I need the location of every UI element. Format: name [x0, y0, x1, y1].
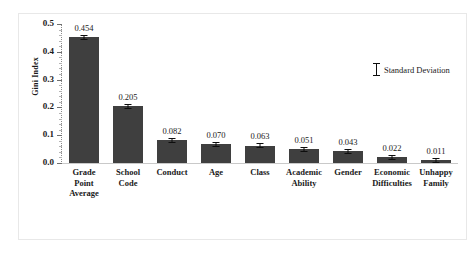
x-axis-category-label: Class — [238, 167, 282, 178]
y-axis-minor-tick — [59, 152, 62, 153]
y-axis-minor-tick — [59, 35, 62, 36]
y-axis-tick-labels: 0.00.10.20.30.40.5 — [20, 0, 54, 255]
y-axis-minor-tick — [59, 130, 62, 131]
error-bar-cap — [433, 158, 440, 159]
error-bar-cap — [125, 108, 132, 109]
x-axis-category-label: Conduct — [150, 167, 194, 178]
x-axis-category-label: Age — [194, 167, 238, 178]
bar-value-label: 0.011 — [427, 147, 446, 156]
bar-group[interactable]: 0.011 — [414, 24, 458, 163]
error-bar-cap — [81, 35, 88, 36]
x-axis-category-label: SchoolCode — [106, 167, 150, 188]
legend: Standard Deviation — [372, 62, 450, 77]
bar-value-label: 0.070 — [206, 131, 225, 140]
y-axis-tick-mark — [57, 80, 62, 81]
error-bar-cap — [301, 151, 308, 152]
y-axis-minor-tick — [59, 102, 62, 103]
category-label-line: Conduct — [150, 167, 194, 178]
bar-value-label: 0.205 — [118, 93, 137, 102]
bar[interactable] — [113, 106, 143, 163]
category-label-line: Age — [194, 167, 238, 178]
bar[interactable] — [69, 37, 99, 163]
bar-group[interactable]: 0.082 — [150, 24, 194, 163]
y-axis-tick-label: 0.5 — [24, 19, 54, 28]
y-axis-tick-mark — [57, 107, 62, 108]
legend-label-standard-deviation: Standard Deviation — [384, 65, 450, 75]
y-axis-minor-tick — [59, 57, 62, 58]
x-axis-category-label: GradePointAverage — [62, 167, 106, 199]
y-axis-minor-tick — [59, 63, 62, 64]
category-label-line: Family — [414, 178, 458, 189]
y-axis-minor-tick — [59, 41, 62, 42]
category-label-line: Ability — [282, 178, 326, 189]
category-label-line: School — [106, 167, 150, 178]
bar-value-label: 0.082 — [162, 127, 181, 136]
y-axis-tick-label: 0.2 — [24, 102, 54, 111]
error-bar-cap — [433, 162, 440, 163]
error-bar-cap — [345, 153, 352, 154]
category-label-line: Grade — [62, 167, 106, 178]
bar-group[interactable]: 0.022 — [370, 24, 414, 163]
error-bar-cap — [301, 147, 308, 148]
y-axis-minor-tick — [59, 141, 62, 142]
bar-value-label: 0.043 — [338, 138, 357, 147]
x-axis-category-label: AcademicAbility — [282, 167, 326, 188]
y-axis-minor-tick — [59, 157, 62, 158]
error-bar-cap — [389, 159, 396, 160]
y-axis-minor-tick — [59, 146, 62, 147]
y-axis-minor-tick — [59, 85, 62, 86]
y-axis-minor-tick — [59, 124, 62, 125]
category-label-line: Gender — [326, 167, 370, 178]
error-bar-cap — [257, 147, 264, 148]
standard-deviation-error-bar-icon — [372, 62, 381, 77]
error-bar-cap — [125, 104, 132, 105]
x-axis-baseline — [58, 163, 458, 164]
bar-value-label: 0.051 — [294, 136, 313, 145]
y-axis-tick-mark — [57, 24, 62, 25]
x-axis-category-label: UnhappyFamily — [414, 167, 458, 188]
x-axis-category-labels: GradePointAverageSchoolCodeConductAgeCla… — [62, 167, 458, 227]
bar-group[interactable]: 0.051 — [282, 24, 326, 163]
bar-group[interactable]: 0.205 — [106, 24, 150, 163]
plot-area: 0.4540.2050.0820.0700.0630.0510.0430.022… — [62, 24, 458, 163]
bar-group[interactable]: 0.063 — [238, 24, 282, 163]
bar-group[interactable]: 0.043 — [326, 24, 370, 163]
category-label-line: Difficulties — [370, 178, 414, 189]
x-axis-category-label: Gender — [326, 167, 370, 178]
y-axis-minor-tick — [59, 46, 62, 47]
category-label-line: Point — [62, 178, 106, 189]
x-axis-category-label: EconomicDifficulties — [370, 167, 414, 188]
bar-group[interactable]: 0.454 — [62, 24, 106, 163]
error-bar-cap — [389, 155, 396, 156]
error-bar-cap — [81, 39, 88, 40]
bar-group[interactable]: 0.070 — [194, 24, 238, 163]
category-label-line: Average — [62, 188, 106, 199]
error-bar-cap — [169, 142, 176, 143]
y-axis-tick-label: 0.4 — [24, 47, 54, 56]
bar[interactable] — [157, 140, 187, 163]
bar-value-label: 0.022 — [382, 144, 401, 153]
y-axis-tick-label: 0.3 — [24, 75, 54, 84]
y-axis-tick-label: 0.0 — [24, 158, 54, 167]
category-label-line: Class — [238, 167, 282, 178]
gini-index-bar-chart: Gini Index 0.00.10.20.30.40.5 0.4540.205… — [0, 0, 476, 255]
error-bar-cap — [169, 138, 176, 139]
bar-value-label: 0.063 — [250, 132, 269, 141]
y-axis-tick-mark — [57, 52, 62, 53]
y-axis-minor-tick — [59, 119, 62, 120]
category-label-line: Code — [106, 178, 150, 189]
y-axis-tick-label: 0.1 — [24, 130, 54, 139]
category-label-line: Academic — [282, 167, 326, 178]
error-bar-cap — [345, 149, 352, 150]
y-axis-minor-tick — [59, 74, 62, 75]
bar-value-label: 0.454 — [74, 24, 93, 33]
y-axis-minor-tick — [59, 96, 62, 97]
y-axis-minor-tick — [59, 30, 62, 31]
y-axis-tick-mark — [57, 135, 62, 136]
y-axis-minor-tick — [59, 113, 62, 114]
error-bar-cap — [257, 143, 264, 144]
error-bar-cap — [213, 146, 220, 147]
error-bar-cap — [213, 142, 220, 143]
y-axis-minor-tick — [59, 68, 62, 69]
y-axis-tick-mark — [57, 163, 62, 164]
